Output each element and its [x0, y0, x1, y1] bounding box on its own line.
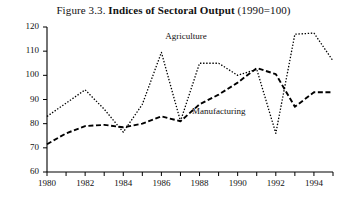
x-tick-label: 1992	[261, 178, 291, 188]
x-axis-ticks	[47, 172, 333, 176]
y-tick-label: 90	[15, 94, 39, 104]
y-axis-ticks	[43, 27, 47, 172]
y-tick-label: 80	[15, 118, 39, 128]
chart-plot-area: 60708090100110120 1980198219841986198819…	[0, 18, 347, 193]
series-label-agriculture: Agriculture	[165, 31, 206, 41]
y-tick-label: 110	[15, 45, 39, 55]
y-tick-label: 60	[15, 166, 39, 176]
x-tick-label: 1986	[146, 178, 176, 188]
y-tick-label: 100	[15, 69, 39, 79]
figure-number: Figure 3.3.	[56, 4, 105, 16]
x-tick-label: 1994	[299, 178, 329, 188]
x-tick-label: 1988	[185, 178, 215, 188]
figure-title-text: Indices of Sectoral Output	[108, 4, 234, 16]
chart-svg	[0, 18, 347, 193]
y-tick-label: 70	[15, 142, 39, 152]
x-tick-label: 1990	[223, 178, 253, 188]
series-label-manufacturing: Manufacturing	[192, 106, 245, 116]
x-tick-label: 1980	[32, 178, 62, 188]
x-tick-label: 1982	[70, 178, 100, 188]
figure-title-suffix: (1990=100)	[238, 4, 291, 16]
chart-series-layer	[47, 33, 333, 144]
y-tick-label: 120	[15, 21, 39, 31]
figure-title: Figure 3.3. Indices of Sectoral Output (…	[0, 4, 347, 16]
figure-container: Figure 3.3. Indices of Sectoral Output (…	[0, 0, 347, 199]
x-tick-label: 1984	[108, 178, 138, 188]
